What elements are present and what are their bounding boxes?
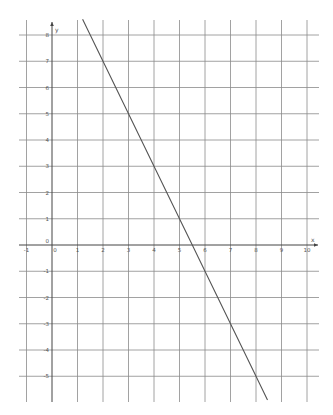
y-tick-label: -1 (44, 268, 49, 274)
grid-lines (19, 20, 319, 402)
chart-svg: -1012345678910-5-4-3-2-1123456780 x y (0, 0, 333, 415)
tick-labels: -1012345678910-5-4-3-2-1123456780 (24, 32, 311, 379)
x-tick-label: 9 (280, 247, 284, 253)
x-tick-label: 10 (304, 247, 311, 253)
y-axis-label: y (55, 26, 59, 34)
x-tick-label: 1 (76, 247, 80, 253)
x-tick-label: -1 (24, 247, 29, 253)
x-tick-label: 3 (127, 247, 131, 253)
x-tick-label: 4 (152, 247, 156, 253)
x-tick-label: 0 (53, 247, 57, 253)
line-chart: -1012345678910-5-4-3-2-1123456780 x y (0, 0, 333, 415)
x-tick-label: 5 (178, 247, 182, 253)
y-tick-label: 1 (46, 216, 50, 222)
origin-label: 0 (46, 238, 50, 244)
y-tick-label: -2 (44, 295, 49, 301)
y-tick-label: 2 (46, 190, 50, 196)
axes (19, 22, 318, 402)
x-axis-label: x (311, 236, 315, 243)
x-tick-label: 8 (254, 247, 258, 253)
y-tick-label: -3 (44, 321, 50, 327)
y-tick-label: 8 (46, 32, 50, 38)
y-tick-label: -5 (44, 373, 50, 379)
y-tick-label: 7 (46, 58, 50, 64)
series-line (83, 19, 268, 400)
y-tick-label: 3 (46, 163, 50, 169)
x-tick-label: 6 (203, 247, 207, 253)
x-tick-label: 7 (229, 247, 233, 253)
y-tick-label: 5 (46, 111, 50, 117)
y-axis-arrow-icon (50, 22, 54, 26)
x-axis-arrow-icon (314, 243, 318, 247)
data-series (83, 19, 268, 400)
y-tick-label: 4 (46, 137, 50, 143)
y-tick-label: -4 (44, 347, 50, 353)
y-tick-label: 6 (46, 85, 50, 91)
x-tick-label: 2 (101, 247, 105, 253)
